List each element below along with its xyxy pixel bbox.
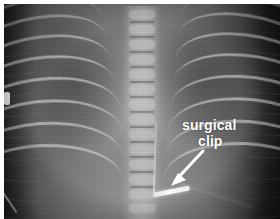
annotation-label-line2: clip: [198, 134, 223, 149]
annotation-label-line1: surgical: [182, 118, 237, 133]
image-vignette: [4, 4, 280, 219]
radiograph-image: [4, 4, 280, 219]
radiograph-figure: surgical clip: [0, 0, 280, 219]
annotation-arrow-icon: [154, 146, 214, 192]
